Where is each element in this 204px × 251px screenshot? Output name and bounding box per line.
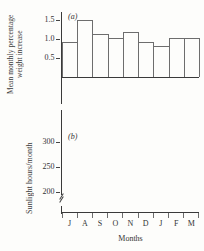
x-tick-J-0 [62, 213, 77, 218]
bar-N-4 [123, 32, 139, 77]
panel-a-x-axis [61, 77, 199, 78]
x-tick-J-6 [153, 213, 168, 218]
x-label-J-6: J [153, 219, 168, 228]
tick-mark-icon [56, 167, 60, 168]
bar-J-0 [62, 42, 78, 77]
panel-a: Mean monthly percentage weight increase … [0, 0, 204, 112]
panel-a-ytick-2: 1.0 [45, 35, 55, 43]
x-tick-O-3 [107, 213, 122, 218]
x-label-M-8: M [184, 219, 199, 228]
axis-break-icon [58, 196, 65, 200]
x-label-O-3: O [108, 219, 123, 228]
tick-mark-icon [56, 39, 60, 40]
panel-b-label: (b) [68, 132, 77, 141]
x-label-D-5: D [138, 219, 153, 228]
panel-b-x-tick-labels: JASONDJFM [62, 219, 199, 228]
tick-mark-icon [56, 142, 60, 143]
panel-b-x-ticks [62, 213, 199, 218]
x-tick-D-5 [138, 213, 153, 218]
x-label-J-0: J [62, 219, 77, 228]
panel-b-y-axis [61, 110, 62, 195]
x-label-F-7: F [169, 219, 184, 228]
bar-A-1 [77, 20, 93, 77]
bar-D-5 [138, 42, 154, 78]
figure-container: Mean monthly percentage weight increase … [0, 0, 204, 251]
panel-b: Sunlight hours/month 300 250 200 (b) JAS… [0, 110, 204, 251]
panel-a-ytick-3: 0.5 [45, 54, 55, 62]
panel-b-ytick-2: 250 [43, 163, 55, 171]
bar-S-2 [92, 34, 108, 77]
x-tick-A-1 [77, 213, 92, 218]
tick-mark-icon [56, 20, 60, 21]
tick-mark-icon [56, 58, 60, 59]
x-tick-F-7 [168, 213, 183, 218]
bar-J-6 [153, 46, 169, 77]
panel-a-ytick-1: 1.5 [45, 16, 55, 24]
panel-b-y-axis-label: Sunlight hours/month [25, 116, 37, 240]
panel-b-ytick-3: 200 [43, 188, 55, 196]
bar-M-8 [184, 38, 200, 77]
tick-mark-icon [56, 192, 60, 193]
panel-a-plot-area [62, 14, 199, 77]
panel-a-bars [62, 14, 199, 77]
panel-a-y-axis-label: Mean monthly percentage weight increase [6, 6, 32, 102]
x-label-S-2: S [92, 219, 107, 228]
x-tick-N-4 [122, 213, 137, 218]
panel-b-x-axis-title: Months [62, 234, 199, 243]
x-tick-S-2 [92, 213, 107, 218]
x-label-A-1: A [77, 219, 92, 228]
panel-b-ytick-1: 300 [43, 138, 55, 146]
x-tick-M-8 [183, 213, 199, 218]
bar-O-3 [108, 38, 124, 77]
bar-F-7 [169, 38, 185, 77]
x-label-N-4: N [123, 219, 138, 228]
